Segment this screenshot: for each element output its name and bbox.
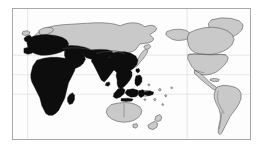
region-south-america — [214, 85, 241, 134]
region-sri-lanka — [105, 82, 110, 86]
region-hokkaido — [144, 44, 151, 49]
region-java — [121, 98, 133, 101]
region-europe — [27, 35, 69, 56]
region-philippines — [135, 75, 142, 86]
region-tasmania — [133, 124, 138, 128]
region-new-zealand-south — [148, 121, 158, 129]
region-new-zealand-north — [155, 114, 162, 121]
region-borneo — [125, 89, 139, 97]
region-southeast-asia-mainland — [116, 69, 132, 89]
region-caribbean — [210, 78, 219, 81]
world-map-svg — [13, 9, 250, 139]
region-canada — [188, 27, 235, 54]
region-madagascar — [68, 93, 75, 105]
region-iceland — [22, 31, 30, 36]
map-frame — [12, 8, 251, 140]
region-iberia — [24, 47, 34, 54]
region-sumatra — [113, 88, 125, 99]
region-africa — [31, 57, 76, 115]
region-taiwan — [136, 69, 140, 73]
region-new-guinea-west — [144, 91, 154, 96]
region-united-states — [188, 54, 229, 75]
figure-root — [0, 0, 263, 152]
